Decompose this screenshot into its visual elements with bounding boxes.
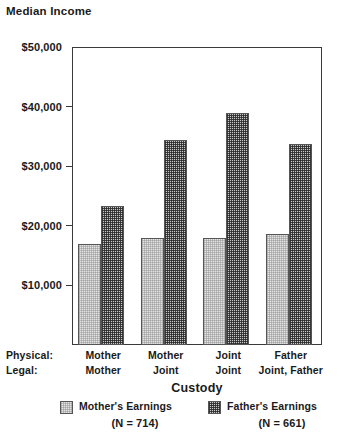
y-axis-tick-label: $30,000 — [22, 160, 62, 172]
legend-label-fathers-earnings: Father's Earnings — [227, 400, 317, 412]
y-axis-tick-label: $50,000 — [22, 41, 62, 53]
x-axis-physical-label-group-4: Father — [246, 349, 336, 361]
bar-mother-group-3 — [203, 238, 226, 345]
bar-father-group-3 — [226, 113, 249, 345]
bar-father-group-1 — [101, 206, 124, 345]
median-income-bar-chart: Median Income $50,000$40,000$30,000$20,0… — [0, 0, 339, 442]
legend-swatch-fathers-earnings — [208, 401, 221, 414]
bar-mother-group-4 — [266, 234, 289, 345]
bars-layer — [72, 47, 322, 345]
legend-label-mothers-earnings: Mother's Earnings — [79, 400, 172, 412]
chart-legend: Mother's Earnings (N = 714) Father's Ear… — [0, 400, 339, 440]
axis-row-label-legal: Legal: — [6, 364, 38, 376]
x-axis-legal-label-group-4: Joint, Father — [246, 364, 336, 376]
y-axis-tick-label: $20,000 — [22, 220, 62, 232]
legend-swatch-mothers-earnings — [60, 401, 73, 414]
x-axis-title: Custody — [72, 381, 322, 395]
y-axis-tick-label: $10,000 — [22, 279, 62, 291]
legend-count-fathers-earnings: (N = 661) — [227, 417, 337, 429]
y-axis-tick-label: $40,000 — [22, 101, 62, 113]
axis-row-label-physical: Physical: — [6, 349, 53, 361]
bar-mother-group-1 — [78, 244, 101, 345]
x-axis-category-labels: Physical: Legal: MotherMotherJointFather… — [0, 349, 339, 383]
bar-father-group-2 — [164, 140, 187, 345]
bar-mother-group-2 — [141, 238, 164, 345]
bar-father-group-4 — [289, 144, 312, 345]
legend-count-mothers-earnings: (N = 714) — [79, 417, 191, 429]
